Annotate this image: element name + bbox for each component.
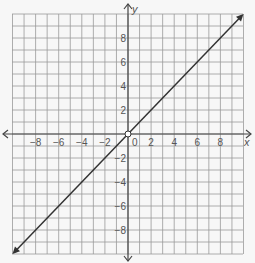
coordinate-plane: xy −8−6−4−224688642−2−4−6−80 (0, 0, 255, 263)
open-circle-marker (125, 131, 131, 137)
x-tick-label: 8 (218, 137, 224, 148)
y-tick-label: −8 (115, 225, 127, 236)
x-axis-label: x (243, 136, 250, 148)
origin-label: 0 (132, 137, 138, 148)
x-tick-label: −4 (76, 137, 88, 148)
x-tick-label: −2 (99, 137, 111, 148)
y-tick-label: 6 (120, 57, 126, 68)
y-tick-label: −4 (115, 177, 127, 188)
y-tick-label: −6 (115, 201, 127, 212)
y-tick-label: 8 (120, 33, 126, 44)
y-axis-label: y (131, 3, 139, 15)
x-tick-label: 2 (148, 137, 154, 148)
x-tick-label: 6 (195, 137, 201, 148)
x-tick-label: 4 (171, 137, 177, 148)
y-tick-label: −2 (115, 153, 127, 164)
x-tick-label: −8 (30, 137, 42, 148)
y-tick-label: 4 (120, 81, 126, 92)
y-tick-label: 2 (120, 105, 126, 116)
x-tick-label: −6 (53, 137, 65, 148)
